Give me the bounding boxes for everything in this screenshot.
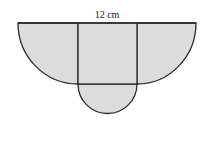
dimension-label: 12 cm	[0, 9, 206, 20]
right-quarter-ellipse	[137, 23, 196, 84]
shape-drawing	[0, 0, 206, 157]
left-quarter-ellipse	[18, 23, 78, 84]
center-square	[78, 23, 137, 84]
bottom-semicircle	[78, 84, 137, 114]
composite-shape-diagram: 12 cm	[0, 0, 206, 157]
